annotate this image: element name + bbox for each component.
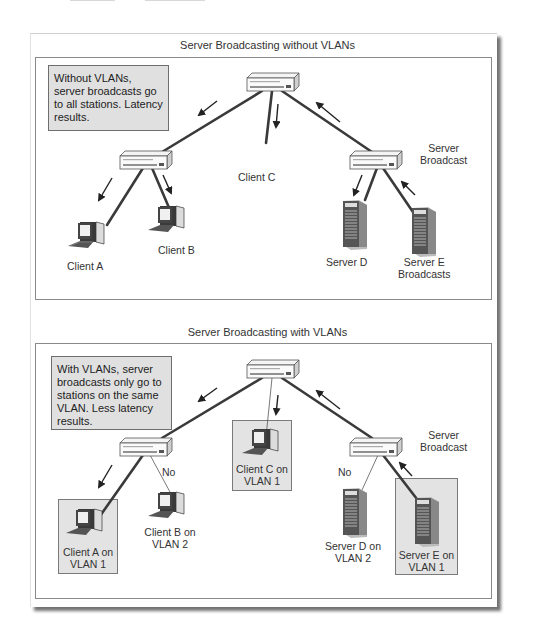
arrow-icon <box>400 463 412 476</box>
server-e-vlan-label: Server E on VLAN 1 <box>395 549 458 573</box>
arrow-icon <box>99 465 112 487</box>
client-a-vlan-label: Client A on VLAN 1 <box>58 546 118 570</box>
client-a-vlan-line2: VLAN 1 <box>58 558 118 570</box>
server-broadcast-bottom-line2: Broadcast <box>420 441 467 453</box>
server-d-vlan-line1: Server D on <box>323 540 383 552</box>
tower-server-icon <box>413 496 441 548</box>
arrow-icon <box>276 395 278 414</box>
client-b-vlan-line1: Client B on <box>142 526 198 538</box>
desktop-computer-icon <box>64 507 108 539</box>
client-c-vlan-line1: Client C on <box>232 463 292 475</box>
client-b-vlan-line2: VLAN 2 <box>142 538 198 550</box>
desktop-computer-icon <box>146 490 190 522</box>
no-broadcast-label-right: No <box>338 466 351 478</box>
server-e-vlan-line2: VLAN 1 <box>395 561 458 573</box>
client-a-vlan-line1: Client A on <box>58 546 118 558</box>
server-d-vlan-line2: VLAN 2 <box>323 552 383 564</box>
switch-icon <box>349 437 403 457</box>
server-e-vlan-line1: Server E on <box>395 549 458 561</box>
arrow-icon <box>199 388 217 401</box>
server-d-vlan-label: Server D on VLAN 2 <box>323 540 383 564</box>
arrow-icon <box>317 391 340 409</box>
server-broadcast-label-bottom: Server Broadcast <box>420 429 467 453</box>
client-c-vlan-line2: VLAN 1 <box>232 475 292 487</box>
switch-icon <box>119 437 173 457</box>
bottom-network-links <box>0 0 535 635</box>
switch-icon <box>246 359 300 379</box>
client-c-vlan-label: Client C on VLAN 1 <box>232 463 292 487</box>
server-broadcast-bottom-line1: Server <box>420 429 467 441</box>
tower-server-icon <box>341 487 369 539</box>
client-b-vlan-label: Client B on VLAN 2 <box>142 526 198 550</box>
no-broadcast-label-left: No <box>162 466 175 478</box>
desktop-computer-icon <box>240 427 284 459</box>
